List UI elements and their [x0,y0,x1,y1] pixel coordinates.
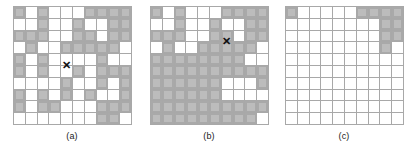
grid-cell-empty[interactable] [73,90,85,102]
grid-cell-filled[interactable] [380,42,392,54]
grid-cell-empty[interactable] [333,101,345,113]
grid-cell-empty[interactable] [321,66,333,78]
grid-cell-empty[interactable] [369,78,381,90]
panel-b-grid[interactable] [150,6,269,125]
grid-cell-empty[interactable] [73,101,85,113]
grid-cell-empty[interactable] [298,78,310,90]
grid-cell-filled[interactable] [163,66,175,78]
grid-cell-filled[interactable] [175,7,187,19]
grid-cell-filled[interactable] [234,42,246,54]
grid-cell-empty[interactable] [120,113,132,125]
grid-cell-filled[interactable] [186,90,198,102]
grid-cell-empty[interactable] [38,42,50,54]
grid-cell-filled[interactable] [234,7,246,19]
grid-cell-filled[interactable] [14,7,26,19]
grid-cell-empty[interactable] [14,113,26,125]
grid-cell-empty[interactable] [26,101,38,113]
grid-cell-empty[interactable] [61,54,73,66]
grid-cell-filled[interactable] [186,78,198,90]
grid-cell-empty[interactable] [392,101,404,113]
grid-cell-empty[interactable] [298,7,310,19]
grid-cell-empty[interactable] [310,90,322,102]
grid-cell-filled[interactable] [245,42,257,54]
grid-cell-empty[interactable] [357,78,369,90]
grid-cell-empty[interactable] [321,7,333,19]
grid-cell-empty[interactable] [120,42,132,54]
grid-cell-filled[interactable] [73,19,85,31]
panel-a-grid[interactable] [13,6,132,125]
grid-cell-empty[interactable] [310,78,322,90]
grid-cell-filled[interactable] [120,101,132,113]
grid-cell-empty[interactable] [298,101,310,113]
grid-cell-empty[interactable] [234,19,246,31]
grid-cell-filled[interactable] [234,66,246,78]
grid-cell-empty[interactable] [38,78,50,90]
grid-cell-filled[interactable] [120,19,132,31]
grid-cell-filled[interactable] [257,31,269,43]
grid-cell-filled[interactable] [210,113,222,125]
grid-cell-empty[interactable] [286,31,298,43]
grid-cell-empty[interactable] [357,54,369,66]
grid-cell-filled[interactable] [97,42,109,54]
grid-cell-empty[interactable] [286,66,298,78]
grid-cell-empty[interactable] [298,90,310,102]
grid-cell-empty[interactable] [345,7,357,19]
grid-cell-filled[interactable] [175,66,187,78]
grid-cell-filled[interactable] [61,78,73,90]
grid-cell-filled[interactable] [97,101,109,113]
grid-cell-empty[interactable] [369,101,381,113]
grid-cell-empty[interactable] [333,113,345,125]
grid-cell-empty[interactable] [321,113,333,125]
grid-cell-filled[interactable] [198,101,210,113]
grid-cell-empty[interactable] [380,78,392,90]
grid-cell-empty[interactable] [333,42,345,54]
grid-cell-empty[interactable] [186,42,198,54]
grid-cell-filled[interactable] [245,101,257,113]
grid-cell-filled[interactable] [245,7,257,19]
grid-cell-empty[interactable] [108,90,120,102]
grid-cell-filled[interactable] [97,113,109,125]
grid-cell-filled[interactable] [14,101,26,113]
grid-cell-empty[interactable] [108,78,120,90]
grid-cell-empty[interactable] [298,66,310,78]
grid-cell-filled[interactable] [38,31,50,43]
grid-cell-empty[interactable] [73,54,85,66]
grid-cell-filled[interactable] [186,54,198,66]
grid-cell-filled[interactable] [186,66,198,78]
grid-cell-filled[interactable] [61,90,73,102]
grid-cell-filled[interactable] [108,7,120,19]
grid-cell-filled[interactable] [257,66,269,78]
grid-cell-empty[interactable] [333,7,345,19]
grid-cell-empty[interactable] [333,31,345,43]
grid-cell-empty[interactable] [321,31,333,43]
grid-cell-empty[interactable] [369,54,381,66]
grid-cell-empty[interactable] [186,7,198,19]
grid-cell-empty[interactable] [257,54,269,66]
grid-cell-empty[interactable] [310,7,322,19]
grid-cell-filled[interactable] [186,113,198,125]
grid-cell-filled[interactable] [175,31,187,43]
grid-cell-empty[interactable] [310,19,322,31]
grid-cell-empty[interactable] [49,66,61,78]
grid-cell-empty[interactable] [392,78,404,90]
grid-cell-filled[interactable] [38,90,50,102]
grid-cell-empty[interactable] [392,66,404,78]
grid-cell-empty[interactable] [357,66,369,78]
grid-cell-empty[interactable] [369,42,381,54]
grid-cell-filled[interactable] [73,66,85,78]
grid-cell-filled[interactable] [108,113,120,125]
grid-cell-filled[interactable] [198,90,210,102]
grid-cell-empty[interactable] [61,19,73,31]
grid-cell-empty[interactable] [357,19,369,31]
grid-cell-empty[interactable] [298,54,310,66]
grid-cell-empty[interactable] [49,31,61,43]
grid-cell-filled[interactable] [108,19,120,31]
grid-cell-empty[interactable] [151,19,163,31]
grid-cell-empty[interactable] [73,7,85,19]
grid-cell-empty[interactable] [380,90,392,102]
grid-cell-filled[interactable] [85,90,97,102]
grid-cell-empty[interactable] [298,113,310,125]
grid-cell-empty[interactable] [357,101,369,113]
grid-cell-filled[interactable] [151,90,163,102]
grid-cell-empty[interactable] [321,101,333,113]
